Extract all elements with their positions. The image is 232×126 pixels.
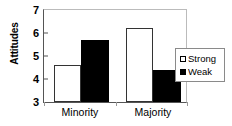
bar-minority-weak [81, 40, 109, 102]
legend: Strong Weak [175, 48, 225, 82]
bar-chart: Attitudes 3 4 5 6 7 Minority Majority St… [0, 0, 232, 126]
x-tick-mark-right [187, 102, 188, 106]
plot-area: 3 4 5 6 7 [43, 9, 187, 103]
legend-label-strong: Strong [188, 54, 216, 64]
bars-layer [44, 10, 186, 102]
legend-swatch-weak-icon [180, 69, 186, 75]
y-tick-label-3: 3 [33, 97, 44, 108]
y-tick-label-4: 4 [33, 74, 44, 85]
legend-item-strong[interactable]: Strong [180, 52, 221, 65]
y-tick-label-5: 5 [33, 51, 44, 62]
legend-label-weak: Weak [188, 67, 212, 77]
y-tick-label-7: 7 [33, 5, 44, 16]
x-tick-mark-mid [116, 102, 117, 106]
bar-majority-strong [126, 28, 153, 102]
legend-item-weak[interactable]: Weak [180, 65, 221, 78]
y-axis-title: Attitudes [9, 9, 20, 79]
y-tick-label-6: 6 [33, 28, 44, 39]
x-label-minority: Minority [62, 106, 99, 118]
x-label-majority: Majority [135, 106, 172, 118]
x-tick-mark-left [44, 102, 45, 106]
legend-swatch-strong-icon [180, 56, 186, 62]
bar-minority-strong [54, 65, 81, 102]
